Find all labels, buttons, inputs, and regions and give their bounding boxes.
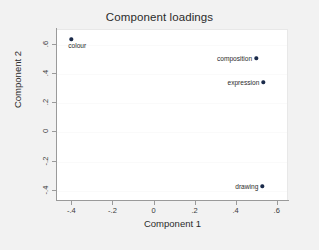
y-axis-tick-label: .4 bbox=[41, 66, 50, 80]
page-title: Component loadings bbox=[0, 11, 319, 23]
x-axis-tick bbox=[112, 201, 113, 205]
y-axis-tick-label: .2 bbox=[41, 95, 50, 109]
y-axis-line bbox=[56, 28, 57, 201]
x-axis-tick bbox=[71, 201, 72, 205]
x-axis-tick bbox=[277, 201, 278, 205]
x-axis-tick-label: -.4 bbox=[67, 206, 76, 215]
x-axis-tick-label: 0 bbox=[151, 206, 155, 215]
x-axis-tick-label: -.2 bbox=[108, 206, 117, 215]
y-axis-tick-label: -.2 bbox=[41, 154, 50, 168]
x-axis-tick-label: .6 bbox=[274, 206, 280, 215]
plot-area bbox=[57, 29, 288, 200]
x-axis-tick bbox=[236, 201, 237, 205]
gridline-y bbox=[57, 191, 287, 192]
gridline-y bbox=[57, 45, 287, 46]
stata-scatter-figure: Component loadings -.4-.20.2.4.6-.4-.20.… bbox=[0, 0, 319, 250]
data-point-label: drawing bbox=[235, 183, 258, 190]
x-axis-title: Component 1 bbox=[57, 218, 288, 229]
y-axis-tick-label: .6 bbox=[41, 37, 50, 51]
y-axis-tick-label: -.4 bbox=[41, 183, 50, 197]
gridline-y bbox=[57, 103, 287, 104]
x-axis-tick-label: .2 bbox=[191, 206, 197, 215]
y-axis-tick bbox=[52, 73, 56, 74]
data-point-label: colour bbox=[68, 42, 86, 49]
x-axis-line bbox=[56, 200, 289, 201]
x-axis-tick bbox=[154, 201, 155, 205]
gridline-y bbox=[57, 74, 287, 75]
y-axis-tick bbox=[52, 131, 56, 132]
gridline-y bbox=[57, 162, 287, 163]
gridline-y bbox=[57, 132, 287, 133]
y-axis-tick bbox=[52, 190, 56, 191]
data-point-label: expression bbox=[227, 79, 259, 86]
y-axis-title: Component 2 bbox=[12, 30, 23, 130]
y-axis-tick-label: 0 bbox=[41, 124, 50, 138]
y-axis-tick bbox=[52, 102, 56, 103]
x-axis-tick-label: .4 bbox=[232, 206, 238, 215]
y-axis-tick bbox=[52, 44, 56, 45]
y-axis-tick bbox=[52, 161, 56, 162]
data-point-label: composition bbox=[217, 55, 252, 62]
x-axis-tick bbox=[195, 201, 196, 205]
